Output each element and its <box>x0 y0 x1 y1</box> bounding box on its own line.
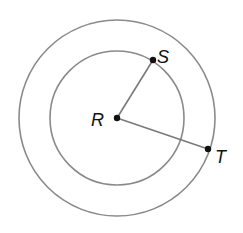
point-T <box>205 146 211 152</box>
point-R <box>114 115 120 121</box>
segment-RT <box>117 118 208 149</box>
concentric-circles-diagram: R S T <box>0 0 243 233</box>
point-S <box>150 57 156 63</box>
label-S: S <box>157 47 169 67</box>
label-T: T <box>215 147 228 167</box>
segment-RS <box>117 60 153 118</box>
label-R: R <box>91 110 104 130</box>
